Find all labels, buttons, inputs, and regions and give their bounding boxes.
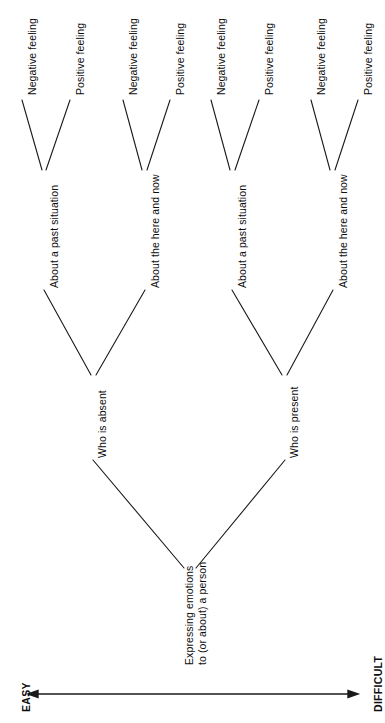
edge-l2-1 [93,460,184,568]
leaf-node-7: Negative feeling [316,18,328,95]
edge-leaf3 [123,100,142,170]
leaf-node-5: Negative feeling [216,18,228,95]
level2-node-present: Who is present [289,387,301,458]
edge-leaf7 [311,100,330,170]
axis-label-easy: EASY [20,682,32,712]
edge-leaf4 [147,100,170,170]
difficulty-axis-arrow [28,691,358,698]
axis-label-difficult: DIFFICULT [372,656,384,712]
edge-l3-1 [44,290,91,375]
edge-leaf5 [211,100,230,170]
diagram-canvas: Negative feeling Positive feeling Negati… [0,0,385,723]
leaf-node-8: Positive feeling [363,23,375,95]
level3-node-4: About the here and now [338,174,350,288]
level2-node-absent: Who is absent [97,390,109,458]
leaf-node-4: Positive feeling [175,23,187,95]
root-node-line1: Expressing emotions [184,566,196,665]
edge-l3-3 [232,290,282,375]
edge-leaf1 [22,100,42,170]
leaf-node-1: Negative feeling [27,18,39,95]
edge-leaf2 [46,100,70,170]
leaf-node-2: Positive feeling [75,23,87,95]
level3-node-1: About a past situation [49,185,61,288]
root-node-line2: to (or about) a person [197,562,209,665]
level3-node-2: About the here and now [150,174,162,288]
edge-l3-4 [287,290,333,375]
edge-leaf6 [235,100,259,170]
level3-node-3: About a past situation [237,185,249,288]
leaf-node-6: Positive feeling [264,23,276,95]
edge-l3-2 [96,290,145,375]
leaf-node-3: Negative feeling [128,18,140,95]
edge-leaf8 [335,100,358,170]
edge-l2-2 [196,460,285,568]
